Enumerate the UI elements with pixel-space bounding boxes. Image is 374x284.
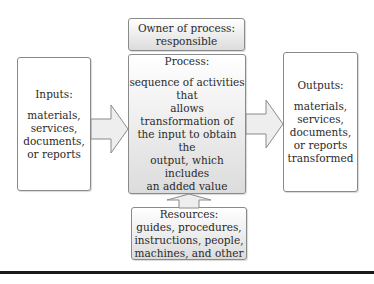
inputs-box: Inputs: materials, services, documents, … [17, 57, 91, 191]
arrow-up-icon [165, 194, 213, 208]
inputs-line: materials, [18, 109, 90, 122]
resources-line: instructions, people, [132, 234, 246, 247]
outputs-title: Outputs: [284, 79, 357, 92]
outputs-line: services, [284, 113, 357, 126]
outputs-line: or reports [284, 139, 357, 152]
resources-box: Resources: guides, procedures, instructi… [131, 207, 247, 260]
resources-line: machines, and other [132, 247, 246, 260]
inputs-line: services, [18, 122, 90, 135]
outputs-line: materials, [284, 100, 357, 113]
arrow-right-icon [91, 105, 129, 165]
owner-line-2: responsible [129, 35, 244, 48]
owner-line-1: Owner of process: [129, 22, 244, 35]
arrow-right-icon [246, 100, 284, 160]
outputs-line: transformed [284, 152, 357, 165]
owner-box: Owner of process: responsible [128, 18, 245, 51]
outputs-box: Outputs: materials, services, documents,… [283, 52, 358, 192]
inputs-line: or reports [18, 148, 90, 161]
outputs-line: documents, [284, 126, 357, 139]
process-box: Process: sequence of activities that all… [128, 54, 246, 194]
inputs-line: documents, [18, 135, 90, 148]
resources-line: Resources: [132, 208, 246, 221]
process-line: an added value [129, 180, 245, 193]
process-line: output, which includes [129, 154, 245, 180]
inputs-title: Inputs: [18, 88, 90, 101]
process-line: sequence of activities that [129, 76, 245, 102]
process-line: allows transformation of [129, 102, 245, 128]
process-title: Process: [129, 55, 245, 68]
bottom-rule [0, 271, 374, 274]
resources-line: guides, procedures, [132, 221, 246, 234]
process-line: the input to obtain the [129, 128, 245, 154]
